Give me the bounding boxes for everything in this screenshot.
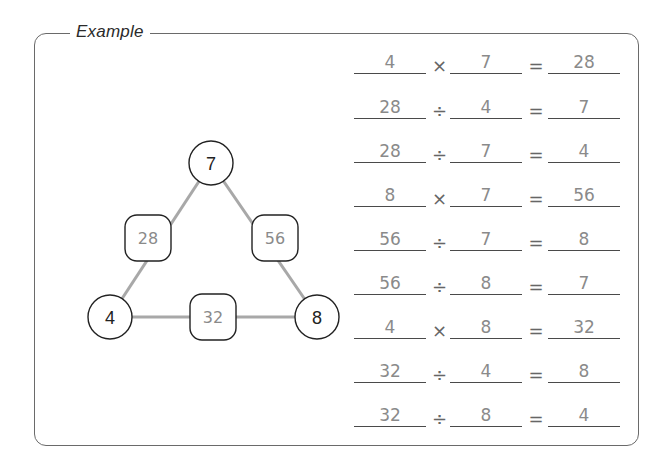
operator: ÷ xyxy=(432,144,446,166)
operand-a-field[interactable]: 56 xyxy=(354,228,426,251)
operand-a-field[interactable]: 56 xyxy=(354,272,426,295)
operand-b-field[interactable]: 7 xyxy=(450,140,522,163)
edge-value-left: 28 xyxy=(138,229,158,248)
equation-row: 8 × 7 = 56 xyxy=(354,184,624,214)
result-field[interactable]: 7 xyxy=(548,272,620,295)
operand-a-field[interactable]: 4 xyxy=(354,316,426,339)
equation-row: 28 ÷ 7 = 4 xyxy=(354,140,624,170)
corner-value-top: 7 xyxy=(206,154,216,174)
operator: ÷ xyxy=(432,408,446,430)
operator: ÷ xyxy=(432,232,446,254)
operand-b-field[interactable]: 4 xyxy=(450,96,522,119)
corner-value-left: 4 xyxy=(105,308,115,328)
operand-a-field[interactable]: 4 xyxy=(354,51,426,74)
edge-box-right: 56 xyxy=(252,215,298,261)
equation-row: 56 ÷ 8 = 7 xyxy=(354,272,624,302)
operand-a-field[interactable]: 8 xyxy=(354,184,426,207)
equals-sign: = xyxy=(528,55,544,77)
operator: ÷ xyxy=(432,100,446,122)
edge-box-left: 28 xyxy=(125,215,171,261)
equals-sign: = xyxy=(528,408,544,430)
operand-a-field[interactable]: 28 xyxy=(354,96,426,119)
operand-a-field[interactable]: 32 xyxy=(354,360,426,383)
result-field[interactable]: 8 xyxy=(548,360,620,383)
operator: × xyxy=(432,188,446,210)
result-field[interactable]: 4 xyxy=(548,140,620,163)
operand-b-field[interactable]: 4 xyxy=(450,360,522,383)
result-field[interactable]: 28 xyxy=(548,51,620,74)
operator: ÷ xyxy=(432,276,446,298)
equals-sign: = xyxy=(528,276,544,298)
equals-sign: = xyxy=(528,100,544,122)
corner-node-right: 8 xyxy=(295,295,339,339)
operator: ÷ xyxy=(432,364,446,386)
operator: × xyxy=(432,55,446,77)
corner-value-right: 8 xyxy=(312,308,322,328)
equation-row: 4 × 8 = 32 xyxy=(354,316,624,346)
result-field[interactable]: 7 xyxy=(548,96,620,119)
equation-row: 32 ÷ 8 = 4 xyxy=(354,404,624,434)
result-field[interactable]: 8 xyxy=(548,228,620,251)
edge-value-right: 56 xyxy=(265,229,285,248)
equation-row: 4 × 7 = 28 xyxy=(354,51,624,81)
operand-b-field[interactable]: 8 xyxy=(450,316,522,339)
corner-node-left: 4 xyxy=(88,295,132,339)
equals-sign: = xyxy=(528,232,544,254)
operand-b-field[interactable]: 7 xyxy=(450,51,522,74)
operand-b-field[interactable]: 8 xyxy=(450,272,522,295)
operator: × xyxy=(432,320,446,342)
edge-box-bottom: 32 xyxy=(190,294,236,340)
result-field[interactable]: 56 xyxy=(548,184,620,207)
equals-sign: = xyxy=(528,144,544,166)
result-field[interactable]: 32 xyxy=(548,316,620,339)
edge-value-bottom: 32 xyxy=(203,308,223,327)
equals-sign: = xyxy=(528,188,544,210)
result-field[interactable]: 4 xyxy=(548,404,620,427)
equation-row: 28 ÷ 4 = 7 xyxy=(354,96,624,126)
operand-a-field[interactable]: 32 xyxy=(354,404,426,427)
operand-a-field[interactable]: 28 xyxy=(354,140,426,163)
equation-row: 56 ÷ 7 = 8 xyxy=(354,228,624,258)
equation-row: 32 ÷ 4 = 8 xyxy=(354,360,624,390)
equals-sign: = xyxy=(528,320,544,342)
equals-sign: = xyxy=(528,364,544,386)
operand-b-field[interactable]: 7 xyxy=(450,228,522,251)
operand-b-field[interactable]: 7 xyxy=(450,184,522,207)
corner-node-top: 7 xyxy=(189,141,233,185)
operand-b-field[interactable]: 8 xyxy=(450,404,522,427)
